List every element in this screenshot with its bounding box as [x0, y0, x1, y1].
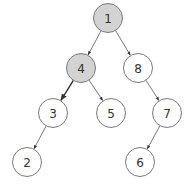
node-label: 6: [136, 156, 144, 170]
tree-node-4: 4: [67, 54, 96, 83]
node-label: 1: [104, 12, 112, 26]
tree-node-6: 6: [126, 148, 155, 177]
edge-1-to-8: [115, 30, 130, 55]
edge-3-to-2: [34, 126, 46, 149]
node-label: 2: [23, 156, 31, 170]
tree-node-2: 2: [13, 148, 42, 177]
node-label: 7: [163, 107, 171, 121]
edge-4-to-5: [89, 80, 103, 100]
edges-layer: [34, 30, 160, 148]
node-label: 4: [77, 62, 85, 76]
nodes-layer: 14835726: [13, 4, 182, 177]
edge-1-to-4: [88, 31, 101, 55]
edge-8-to-7: [146, 80, 159, 100]
tree-node-1: 1: [94, 4, 123, 33]
node-label: 3: [49, 107, 57, 121]
tree-node-8: 8: [124, 54, 153, 83]
tree-diagram: 14835726: [0, 0, 195, 189]
tree-node-3: 3: [39, 99, 68, 128]
node-label: 8: [134, 62, 142, 76]
edge-7-to-6: [147, 126, 160, 149]
edge-4-to-3: [61, 80, 73, 100]
tree-node-7: 7: [153, 99, 182, 128]
node-label: 5: [107, 107, 115, 121]
tree-node-5: 5: [97, 99, 126, 128]
